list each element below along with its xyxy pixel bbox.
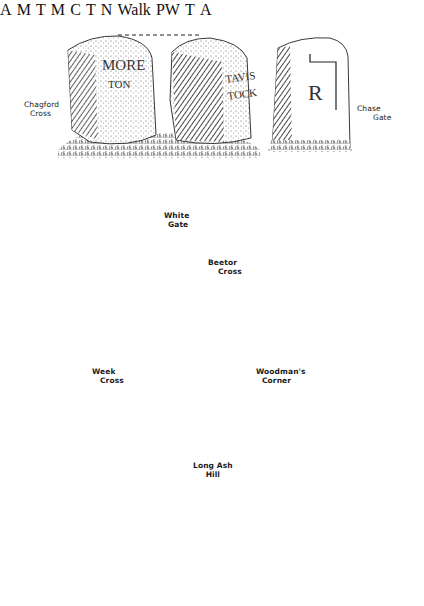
caption-line: Woodman's [256, 367, 306, 376]
caption-line: Corner [256, 376, 306, 385]
caption-line: Long Ash [193, 461, 233, 470]
caption-line: Week [92, 367, 124, 376]
svg-text:R: R [308, 80, 323, 105]
caption-white-gate: White Gate [164, 211, 189, 229]
caption-line: Chase [357, 104, 391, 113]
caption-line: Cross [92, 376, 124, 385]
svg-text:TON: TON [108, 78, 130, 90]
caption-line: Chagford [24, 100, 59, 109]
boundary-stones-illustration: MORE TON TAVIS TOCK R [0, 0, 424, 606]
svg-text:MORE: MORE [102, 57, 145, 73]
caption-chagford-cross: Chagford Cross [24, 100, 59, 118]
caption-line: Beetor [208, 258, 242, 267]
caption-long-ash-hill: Long Ash Hill [193, 461, 233, 479]
group-chagford-chase: MORE TON TAVIS TOCK R [58, 35, 352, 158]
caption-line: Gate [164, 220, 189, 229]
caption-week-cross: Week Cross [92, 367, 124, 385]
caption-line: Cross [24, 109, 59, 118]
caption-line: Cross [208, 267, 242, 276]
caption-woodmans-corner: Woodman's Corner [256, 367, 306, 385]
caption-line: Gate [357, 113, 391, 122]
caption-beetor-cross: Beetor Cross [208, 258, 242, 276]
caption-chase-gate: Chase Gate [357, 104, 391, 122]
caption-line: Hill [193, 470, 233, 479]
caption-line: White [164, 211, 189, 220]
